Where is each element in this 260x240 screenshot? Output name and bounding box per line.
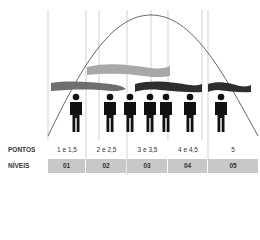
pontos-cell: 1 e 1,5 <box>48 146 86 153</box>
person-icon <box>215 94 227 132</box>
banner-dark-1 <box>135 82 202 93</box>
niveis-row-label: NÍVEIS <box>8 162 29 169</box>
nivel-cell: 05 <box>208 159 258 173</box>
people-figures <box>70 94 227 132</box>
nivel-cell: 04 <box>168 159 207 173</box>
pontos-row-label: PONTOS <box>8 146 35 153</box>
person-icon <box>104 94 116 132</box>
pontos-cell: 5 <box>208 146 258 153</box>
nivel-cell: 02 <box>86 159 126 173</box>
person-icon <box>70 94 82 132</box>
person-icon <box>160 94 172 132</box>
pontos-cell: 2 e 2,5 <box>86 146 127 153</box>
person-icon <box>124 94 136 132</box>
person-icon <box>184 94 196 132</box>
banner-dark-2 <box>208 82 251 92</box>
nivel-cell: 01 <box>48 159 85 173</box>
banner-medium <box>51 81 126 91</box>
nivel-cell: 03 <box>127 159 167 173</box>
pontos-cell: 4 e 4,5 <box>168 146 208 153</box>
person-icon <box>144 94 156 132</box>
banner-light <box>87 64 170 77</box>
pontos-cell: 3 e 3,5 <box>127 146 168 153</box>
